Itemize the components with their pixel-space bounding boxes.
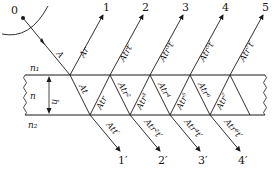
internal-down-amplitude-3: Atr⁴: [156, 79, 173, 100]
internal-up-amplitude-2: Atr³: [133, 91, 150, 112]
thickness-arrow-down-icon: [47, 108, 52, 114]
reflected-amplitude-3: Atr³t′: [157, 39, 177, 64]
transmitted-amplitude-4: Atr⁶t′: [222, 116, 245, 140]
reflected-ray-1: [70, 15, 103, 75]
transmitted-number-4: 4′: [238, 154, 248, 167]
reflected-number-3: 3: [182, 1, 189, 14]
reflected-amplitude-4: Atr⁵t′: [197, 39, 217, 64]
film-left-broken-edge: [24, 75, 27, 115]
transmitted-number-2: 2′: [158, 154, 168, 167]
internal-up-amplitude-3: Atr⁵: [173, 91, 190, 112]
medium-film-label: n: [30, 91, 36, 101]
internal-down-amplitude-4: Atr⁶: [196, 79, 213, 100]
reflected-number-1: 1: [103, 1, 110, 14]
thickness-arrow-up-icon: [47, 76, 52, 82]
reflected-amplitude-2: Atrt′: [117, 42, 135, 64]
source-label: 0: [11, 4, 18, 17]
transmitted-amplitude-2: Atr²t′: [142, 116, 165, 140]
thickness-label: h: [50, 99, 60, 105]
transmitted-number-1: 1′: [118, 154, 128, 167]
thin-film-interference-diagram: 0 A n₁ n n₂ h 1 2 3 4 5 Ar Atrt′ Atr³t′ …: [0, 0, 274, 169]
medium-bottom-label: n₂: [28, 120, 38, 130]
reflected-number-2: 2: [142, 1, 149, 14]
internal-up-amplitude-1: Atr: [93, 94, 109, 112]
reflected-amplitude-5: Atr⁷t′: [237, 39, 257, 64]
reflected-number-5: 5: [262, 1, 269, 14]
transmitted-number-3: 3′: [198, 154, 208, 167]
transmitted-amplitude-3: Atr⁴t′: [182, 116, 205, 140]
reflected-number-4: 4: [222, 1, 229, 14]
internal-down-amplitude-2: Atr²: [116, 79, 133, 100]
internal-up-amplitude-4: Atr⁷: [213, 91, 230, 112]
film-right-broken-edge: [264, 75, 267, 115]
medium-top-label: n₁: [30, 63, 39, 73]
reflected-amplitude-1: Ar: [77, 44, 92, 59]
